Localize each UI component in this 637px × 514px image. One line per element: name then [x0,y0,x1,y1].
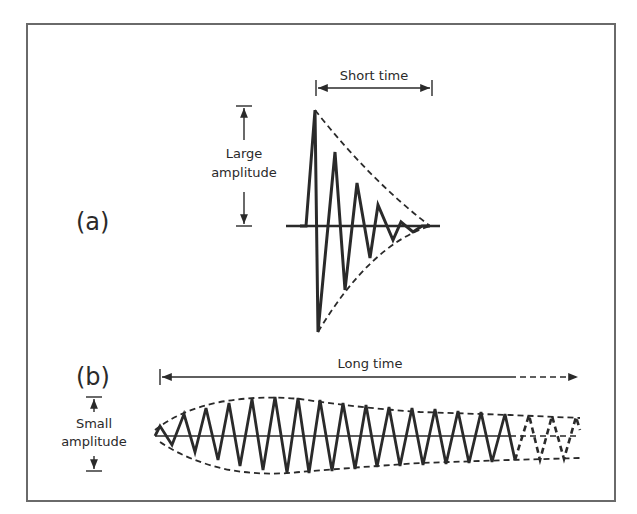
panel-b-waveform [155,397,515,473]
panel-b-label: (b) [76,363,110,391]
panel-a-label: (a) [76,208,109,236]
small-amplitude-label-line2: amplitude [61,434,127,449]
panel-b: (b) Long time Small amplitude [61,356,580,474]
long-time-label: Long time [338,356,403,371]
diagram-canvas: (a) Short time Large amplitude (b) [0,0,637,514]
large-amplitude-label-line2: amplitude [211,165,277,180]
short-time-label: Short time [340,68,408,83]
small-amplitude-label-line1: Small [76,416,112,431]
long-time-arrow [160,369,578,385]
figure-frame [27,24,615,501]
panel-a: (a) Short time Large amplitude [76,68,440,332]
large-amplitude-label-line1: Large [226,146,263,161]
panel-a-lower-envelope [318,226,430,332]
panel-b-waveform-continuation [515,415,580,460]
panel-a-damped-waveform [300,110,430,332]
